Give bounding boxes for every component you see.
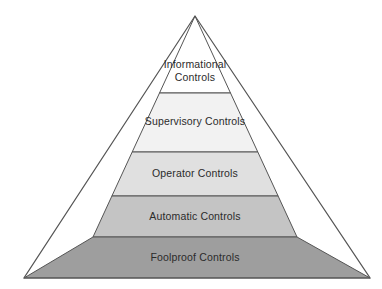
pyramid-diagram: Informational Controls Supervisory Contr… xyxy=(0,0,382,289)
tier-shape-automatic xyxy=(93,196,297,237)
tier-shape-operator xyxy=(112,152,278,196)
tier-shape-foolproof xyxy=(24,237,370,278)
tier-shape-supervisory xyxy=(132,93,258,152)
pyramid-shape xyxy=(0,0,382,289)
